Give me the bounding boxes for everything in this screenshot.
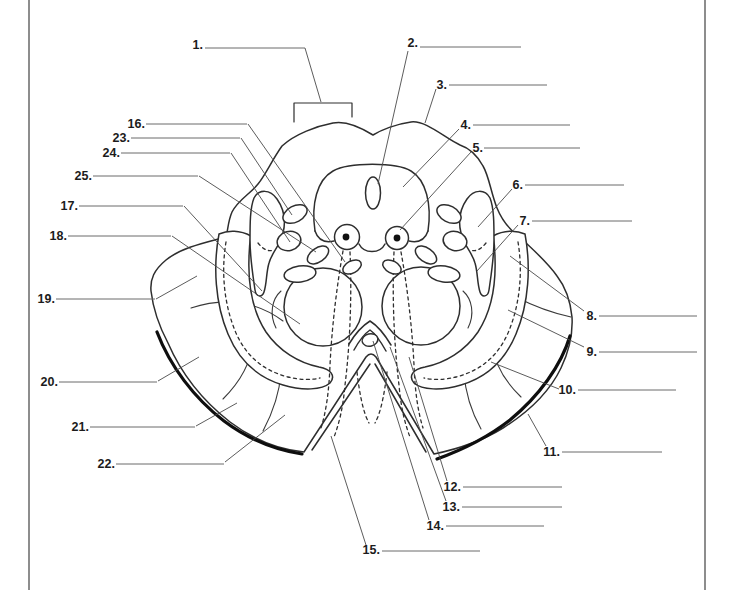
label-number: 17. bbox=[61, 199, 78, 213]
label-number: 24. bbox=[103, 146, 120, 160]
label-number: 20. bbox=[41, 375, 58, 389]
label-number: 25. bbox=[75, 169, 92, 183]
leader-line bbox=[331, 436, 366, 545]
leader-line bbox=[528, 414, 546, 446]
dot-right bbox=[394, 235, 401, 242]
label-number: 4. bbox=[461, 118, 471, 132]
medulla-cross-section-diagram: 1.2.3.4.5.6.7.8.9.10.11.12.13.14.15.16.1… bbox=[0, 0, 738, 590]
label-number: 18. bbox=[50, 229, 67, 243]
label-number: 10. bbox=[559, 383, 576, 397]
label-number: 16. bbox=[128, 117, 145, 131]
label-number: 3. bbox=[437, 78, 447, 92]
label-number: 22. bbox=[98, 457, 115, 471]
label-1-bracket bbox=[294, 103, 352, 122]
label-number: 19. bbox=[38, 292, 55, 306]
leader-line bbox=[425, 89, 436, 123]
label-group-1: 1. bbox=[193, 38, 321, 102]
label-number: 1. bbox=[193, 38, 203, 52]
label-group-20: 20. bbox=[41, 357, 199, 389]
label-group-15: 15. bbox=[331, 436, 480, 557]
label-number: 15. bbox=[363, 543, 380, 557]
leader-line bbox=[305, 48, 321, 102]
label-number: 9. bbox=[587, 345, 597, 359]
label-number: 7. bbox=[520, 214, 530, 228]
label-number: 11. bbox=[543, 445, 560, 459]
dot-left bbox=[343, 234, 350, 241]
label-group-21: 21. bbox=[72, 403, 237, 434]
worksheet-page: 1.2.3.4.5.6.7.8.9.10.11.12.13.14.15.16.1… bbox=[0, 0, 738, 590]
label-number: 21. bbox=[72, 420, 89, 434]
label-number: 14. bbox=[427, 519, 444, 533]
label-number: 6. bbox=[513, 178, 523, 192]
label-number: 23. bbox=[113, 131, 130, 145]
label-group-11: 11. bbox=[528, 414, 662, 459]
label-number: 5. bbox=[473, 141, 483, 155]
label-number: 8. bbox=[587, 309, 597, 323]
label-number: 13. bbox=[443, 500, 460, 514]
label-number: 12. bbox=[444, 480, 461, 494]
label-group-3: 3. bbox=[425, 78, 547, 123]
label-number: 2. bbox=[408, 36, 418, 50]
